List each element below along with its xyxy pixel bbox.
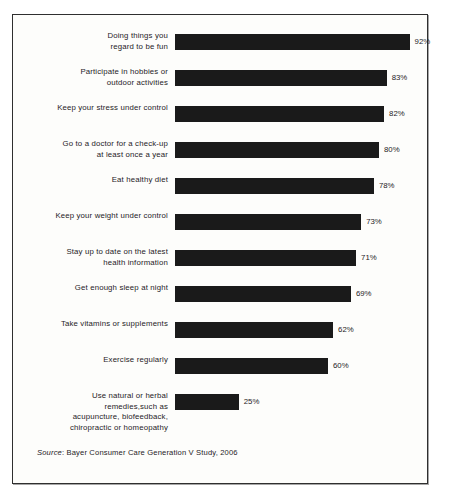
bar-fill [175,286,351,302]
bar-category-label: Doing things you regard to be fun [15,31,175,52]
bar-value-label: 71% [361,253,377,263]
chart-frame: Doing things you regard to be fun92%Part… [12,14,428,484]
bar-fill [175,214,361,230]
source-text: Bayer Consumer Care Generation V Study, … [67,448,238,457]
bar-category-label: Participate in hobbies or outdoor activi… [15,67,175,88]
bar: 92% [175,34,410,50]
bar-fill [175,394,239,410]
bar-fill [175,322,333,338]
bar: 69% [175,286,351,302]
bar-chart-plot-area: Doing things you regard to be fun92%Part… [13,15,427,483]
bar: 83% [175,70,387,86]
bar-category-label: Keep your stress under control [15,103,175,114]
bar-value-label: 78% [379,181,395,191]
bar: 60% [175,358,328,374]
bar: 71% [175,250,356,266]
bar-fill [175,70,387,86]
bar-value-label: 62% [338,325,354,335]
bar: 78% [175,178,374,194]
bar-fill [175,250,356,266]
bar: 73% [175,214,361,230]
bar: 82% [175,106,384,122]
bar-category-label: Stay up to date on the latest health inf… [15,247,175,268]
bar-fill [175,358,328,374]
bar-category-label: Go to a doctor for a check-up at least o… [15,139,175,160]
bar-value-label: 80% [384,145,400,155]
bar-category-label: Keep your weight under control [15,211,175,222]
bar-fill [175,34,410,50]
bar-category-label: Get enough sleep at night [15,283,175,294]
bar-value-label: 92% [415,37,431,47]
bar-category-label: Exercise regularly [15,355,175,366]
bar-category-label: Eat healthy diet [15,175,175,186]
bar-category-label: Use natural or herbal remedies,such as a… [15,391,175,433]
bar-value-label: 25% [244,397,260,407]
bar-fill [175,142,379,158]
bar: 80% [175,142,379,158]
bar: 25% [175,394,239,410]
bar: 62% [175,322,333,338]
source-note: Source: Bayer Consumer Care Generation V… [37,448,238,457]
bar-value-label: 69% [356,289,372,299]
bar-fill [175,106,384,122]
bar-value-label: 60% [333,361,349,371]
bar-fill [175,178,374,194]
bar-value-label: 73% [366,217,382,227]
bar-value-label: 82% [389,109,405,119]
bar-category-label: Take vitamins or supplements [15,319,175,330]
bar-value-label: 83% [392,73,408,83]
source-label: Source [37,448,62,457]
